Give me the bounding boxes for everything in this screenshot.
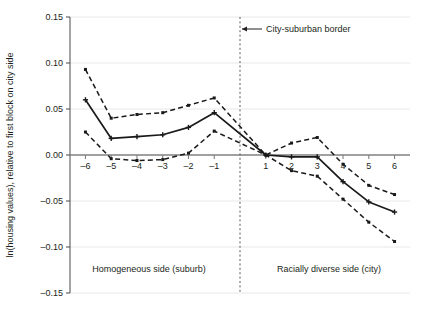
data-point-marker: [110, 157, 113, 160]
border-annotation-arrowhead: [242, 26, 247, 31]
data-point-marker: [290, 169, 293, 172]
x-tick-label: –6: [80, 161, 90, 171]
x-tick-label: –1: [209, 161, 219, 171]
y-tick-label: 0.10: [45, 58, 63, 68]
series-line-1: [85, 100, 394, 212]
x-tick-label: 1: [263, 161, 268, 171]
data-point-marker: [367, 184, 370, 187]
x-tick-label: 5: [366, 161, 371, 171]
x-tick-label: –3: [158, 161, 168, 171]
x-tick-label: –5: [106, 161, 116, 171]
city-suburban-border-label: City-suburban border: [266, 24, 351, 34]
data-point-marker: [161, 158, 164, 161]
data-point-marker: [316, 175, 319, 178]
y-tick-label: 0.05: [45, 104, 63, 114]
data-point-marker: [316, 136, 319, 139]
data-point-marker: [213, 96, 216, 99]
data-point-marker: [135, 159, 138, 162]
data-point-marker: [187, 104, 190, 107]
data-point-marker: [342, 163, 345, 166]
x-tick-label: 3: [315, 161, 320, 171]
y-axis-label: ln(housing values), relative to first bl…: [5, 52, 15, 257]
x-tick-label: –4: [132, 161, 142, 171]
y-tick-label: 0.15: [45, 12, 63, 22]
data-point-marker: [213, 130, 216, 133]
x-tick-label: 6: [392, 161, 397, 171]
data-point-marker: [367, 221, 370, 224]
racially-diverse-side-label: Racially diverse side (city): [277, 264, 381, 274]
chart-figure: 0.150.100.050.00–0.05–0.10–0.15–6–5–4–3–…: [0, 0, 422, 311]
data-point-marker: [110, 117, 113, 120]
y-tick-label: 0.00: [45, 150, 63, 160]
data-point-marker: [135, 113, 138, 116]
data-point-marker: [290, 142, 293, 145]
data-point-marker: [84, 68, 87, 71]
data-point-marker: [264, 154, 267, 157]
housing-value-gradient-chart: 0.150.100.050.00–0.05–0.10–0.15–6–5–4–3–…: [0, 0, 422, 311]
data-point-marker: [187, 152, 190, 155]
y-tick-label: –0.10: [40, 242, 63, 252]
data-point-marker: [393, 240, 396, 243]
x-tick-label: –2: [183, 161, 193, 171]
y-tick-label: –0.05: [40, 196, 63, 206]
data-point-marker: [342, 198, 345, 201]
homogeneous-side-label: Homogeneous side (suburb): [92, 264, 206, 274]
data-point-marker: [161, 111, 164, 114]
data-point-marker: [393, 193, 396, 196]
y-tick-label: –0.15: [40, 288, 63, 298]
data-point-marker: [84, 131, 87, 134]
